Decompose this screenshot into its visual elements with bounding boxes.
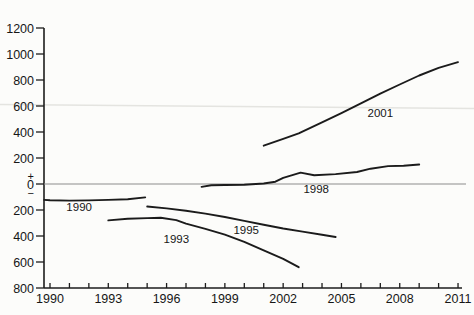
scan-artifact-line: [0, 105, 474, 109]
y-tick-label: 200: [13, 152, 34, 166]
y-tick-label: 1000: [6, 48, 34, 62]
line-chart: 12001000800600400200+0−20040060080019901…: [0, 0, 474, 315]
series-label-1995: 1995: [233, 224, 259, 236]
y-tick-label: 1200: [6, 22, 34, 36]
x-tick-label: 2008: [386, 292, 414, 306]
y-tick-label: 400: [13, 230, 34, 244]
x-tick-label: 1993: [94, 292, 122, 306]
x-tick-label: 2002: [269, 292, 297, 306]
x-tick-label: 1999: [211, 292, 239, 306]
series-label-1993: 1993: [163, 233, 189, 245]
series-label-2001: 2001: [368, 107, 394, 119]
series-label-1990: 1990: [66, 201, 92, 213]
x-tick-label: 2005: [328, 292, 356, 306]
y-tick-label: 800: [13, 74, 34, 88]
chart-figure: 12001000800600400200+0−20040060080019901…: [0, 0, 474, 315]
x-tick-label: 1990: [36, 292, 64, 306]
x-tick-label: 2011: [445, 292, 472, 306]
x-tick-label: 1996: [153, 292, 181, 306]
series-line-2001: [264, 62, 458, 146]
y-tick-label: 400: [13, 126, 34, 140]
y-zero-minus-sign: −: [28, 187, 34, 199]
y-tick-label: 800: [13, 282, 34, 296]
series-label-1998: 1998: [303, 183, 329, 195]
y-tick-label: 200: [13, 204, 34, 218]
y-tick-label: 600: [13, 256, 34, 270]
series-line-1990: [44, 197, 145, 200]
y-tick-label: 600: [13, 100, 34, 114]
